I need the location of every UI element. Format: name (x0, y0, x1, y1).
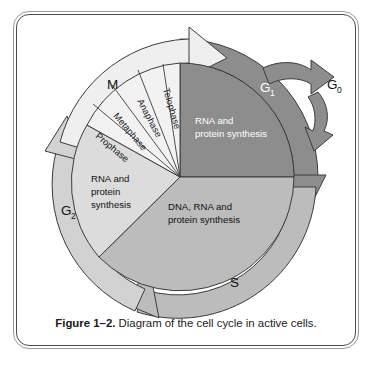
label-g2-subscript: 2 (71, 211, 76, 221)
label-g2-letter: G (61, 203, 72, 218)
figure-frame: G 1 RNA and protein synthesis S DNA, RNA… (13, 11, 359, 349)
label-m: M (107, 77, 118, 92)
cell-cycle-diagram: G 1 RNA and protein synthesis S DNA, RNA… (17, 15, 363, 353)
label-s: S (230, 275, 239, 290)
s-description-line2: protein synthesis (168, 214, 240, 225)
figure-caption-label: Figure 1–2. (55, 317, 115, 329)
figure-caption-text: Diagram of the cell cycle in active cell… (119, 317, 317, 329)
label-g1-letter: G (260, 80, 271, 95)
g2-description-line3: synthesis (91, 199, 131, 210)
g1-description-line1: RNA and (195, 115, 233, 126)
figure-frame-inner-border: G 1 RNA and protein synthesis S DNA, RNA… (16, 14, 356, 346)
g1-description-line2: protein synthesis (195, 128, 267, 139)
label-g0-subscript: 0 (337, 85, 342, 95)
cell-cycle-svg: G 1 RNA and protein synthesis S DNA, RNA… (17, 15, 363, 353)
label-g0-letter: G (327, 77, 338, 92)
g2-description-line2: protein (91, 186, 120, 197)
label-g1-subscript: 1 (270, 88, 275, 98)
figure-caption: Figure 1–2. Diagram of the cell cycle in… (17, 317, 355, 329)
g2-description-line1: RNA and (91, 173, 129, 184)
s-description-line1: DNA, RNA and (168, 201, 232, 212)
label-g0: G 0 (327, 77, 342, 95)
